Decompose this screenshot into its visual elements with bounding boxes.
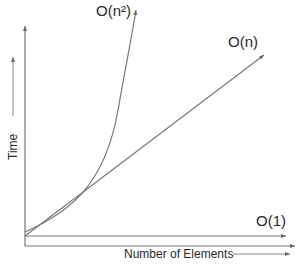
on2-label: O(n²) <box>96 2 131 19</box>
o1-label: O(1) <box>256 212 286 229</box>
y-axis-title: Time <box>6 134 20 160</box>
on2-curve <box>25 10 136 232</box>
on-label: O(n) <box>228 33 258 50</box>
x-axis-title: Number of Elements <box>124 247 233 261</box>
on-line <box>25 55 264 236</box>
